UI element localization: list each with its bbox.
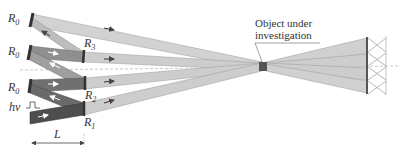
mirror-r0-bot	[29, 79, 31, 93]
mirror-r3	[83, 50, 84, 63]
object-icon	[259, 62, 267, 71]
object-label-line2: investigation	[255, 29, 312, 41]
optical-diagram: R0 R0 R0 R3 R2 R1 hν L Object under inve…	[0, 0, 403, 155]
label-r0-top: R0	[7, 11, 19, 27]
label-r3: R3	[83, 36, 95, 52]
long-beams	[32, 14, 367, 115]
pulse-icon	[26, 102, 40, 108]
label-r1: R1	[83, 115, 95, 131]
label-distance: L	[53, 127, 61, 141]
label-r0-bot: R0	[7, 80, 19, 96]
label-r0-mid: R0	[7, 44, 19, 60]
label-hv: hν	[9, 100, 21, 114]
object-label-line1: Object under	[255, 17, 312, 29]
detector-array	[367, 36, 386, 95]
object-leader-line	[255, 43, 262, 62]
label-r2: R2	[84, 88, 96, 104]
